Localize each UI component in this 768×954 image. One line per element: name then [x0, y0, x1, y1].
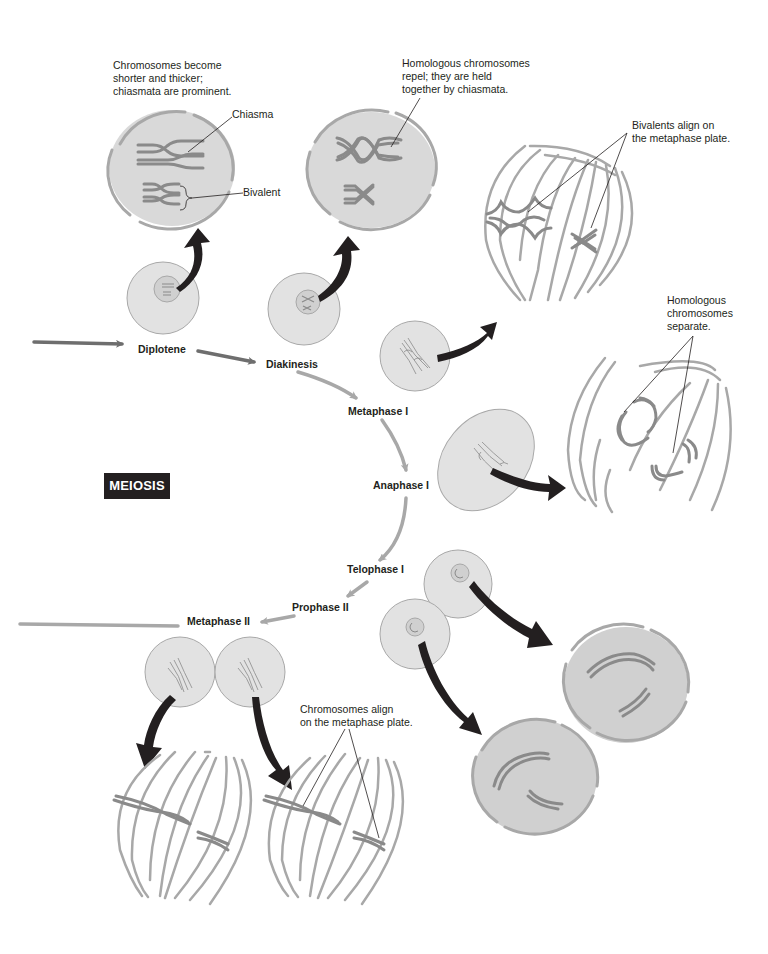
- metaphase1-note: Bivalents align on the metaphase plate.: [632, 119, 730, 145]
- stage-label-telophase-1: Telophase I: [347, 563, 404, 575]
- stage-label-prophase-2: Prophase II: [292, 601, 349, 613]
- diakinesis-small-cell: [268, 273, 340, 345]
- metaphase2-large-spindle-1: [118, 752, 251, 904]
- diplotene-note: Chromosomes become shorter and thicker; …: [113, 59, 231, 98]
- chiasma-label: Chiasma: [232, 108, 273, 121]
- meiosis-diagram: Chromosomes become shorter and thicker; …: [0, 0, 768, 954]
- telophase1-zoom-arrow-2: [418, 641, 482, 735]
- anaphase1-small-cell: [418, 390, 554, 530]
- anaphase1-large-spindle: [568, 358, 731, 512]
- metaphase1-large-spindle: [485, 146, 632, 300]
- diakinesis-note: Homologous chromosomes repel; they are h…: [402, 57, 530, 96]
- metaphase2-leader-2: [349, 729, 379, 838]
- prophase2-large-cell-1: [563, 624, 688, 743]
- flow-arrows: [20, 342, 406, 626]
- stage-label-anaphase-1: Anaphase I: [373, 479, 429, 491]
- telophase1-zoom-arrow-1: [469, 581, 553, 648]
- stage-label-metaphase-1: Metaphase I: [348, 405, 408, 417]
- meiosis-title-badge: MEIOSIS: [104, 473, 170, 499]
- metaphase2-note: Chromosomes align on the metaphase plate…: [300, 703, 413, 729]
- metaphase2-zoom-arrow-2: [252, 697, 292, 790]
- anaphase1-leader-2: [673, 336, 693, 453]
- diplotene-small-cell: [127, 262, 199, 334]
- bivalent-label: Bivalent: [243, 186, 280, 199]
- stage-label-metaphase-2: Metaphase II: [187, 615, 250, 627]
- anaphase1-note: Homologous chromosomes separate.: [667, 294, 733, 333]
- diakinesis-large-cell: [307, 98, 436, 230]
- stage-label-diplotene: Diplotene: [138, 343, 186, 355]
- metaphase2-small-cells: [145, 637, 285, 707]
- prophase2-large-cell-2: [473, 719, 598, 835]
- diakinesis-zoom-arrow: [318, 236, 360, 302]
- stage-label-diakinesis: Diakinesis: [266, 358, 318, 370]
- diplotene-large-cell: [108, 110, 243, 229]
- anaphase1-leader-1: [624, 336, 693, 412]
